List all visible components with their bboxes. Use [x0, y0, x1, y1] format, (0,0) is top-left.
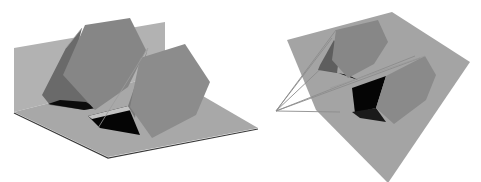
left-panel: [14, 18, 258, 158]
figure: [0, 0, 481, 182]
rendering-canvas: [0, 0, 481, 182]
right-panel: [276, 12, 470, 182]
